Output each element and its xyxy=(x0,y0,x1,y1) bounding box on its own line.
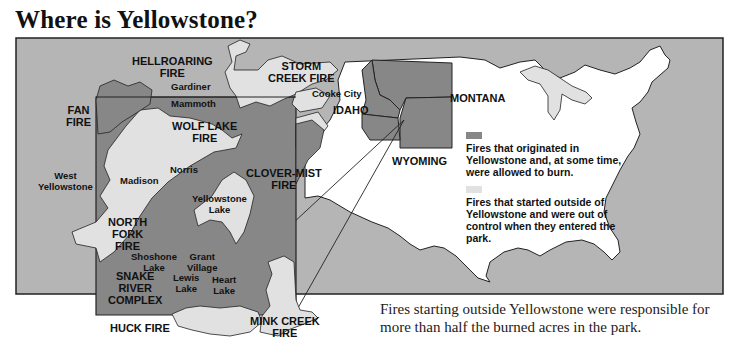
legend-swatch-outside-fires xyxy=(466,186,482,193)
label-cooke-city: Cooke City xyxy=(312,88,362,99)
legend-swatch-origin-fires xyxy=(466,132,482,139)
label-heart-lake: Heart Lake xyxy=(212,274,236,296)
label-norris: Norris xyxy=(170,164,198,175)
label-north-fork-fire: NORTH FORK FIRE xyxy=(108,216,147,252)
label-mink-creek-fire: MINK CREEK FIRE xyxy=(250,315,320,339)
state-idaho-south xyxy=(362,114,400,140)
legend-text-outside-fires: Fires that started outside of Yellowston… xyxy=(466,196,636,244)
label-hellroaring-fire: HELLROARING FIRE xyxy=(132,55,213,79)
label-yellowstone-lake: Yellowstone Lake xyxy=(192,193,247,215)
state-wyoming xyxy=(400,97,452,148)
label-snake-river-complex: SNAKE RIVER COMPLEX xyxy=(108,270,162,306)
label-idaho: IDAHO xyxy=(333,104,368,116)
label-shoshone-lake: Shoshone Lake xyxy=(131,251,177,273)
map-legend: Fires that originated in Yellowstone and… xyxy=(466,132,636,252)
label-lewis-lake: Lewis Lake xyxy=(173,272,199,294)
label-grant-village: Grant Village xyxy=(187,251,217,273)
label-west-yellowstone: West Yellowstone xyxy=(38,170,93,192)
label-montana: MONTANA xyxy=(450,92,505,104)
label-fan-fire: FAN FIRE xyxy=(66,104,91,128)
label-madison: Madison xyxy=(120,175,159,186)
label-wyoming: WYOMING xyxy=(392,155,447,167)
legend-text-origin-fires: Fires that originated in Yellowstone and… xyxy=(466,142,636,178)
label-storm-creek-fire: STORM CREEK FIRE xyxy=(268,60,335,84)
label-gardiner: Gardiner xyxy=(171,81,211,92)
label-clover-mist-fire: CLOVER-MIST FIRE xyxy=(246,167,322,191)
map-caption: Fires starting outside Yellowstone were … xyxy=(380,300,725,336)
huck-fire-area xyxy=(172,306,262,336)
label-mammoth: Mammoth xyxy=(171,98,216,109)
label-huck-fire: HUCK FIRE xyxy=(110,322,170,334)
label-wolf-lake-fire: WOLF LAKE FIRE xyxy=(172,120,237,144)
